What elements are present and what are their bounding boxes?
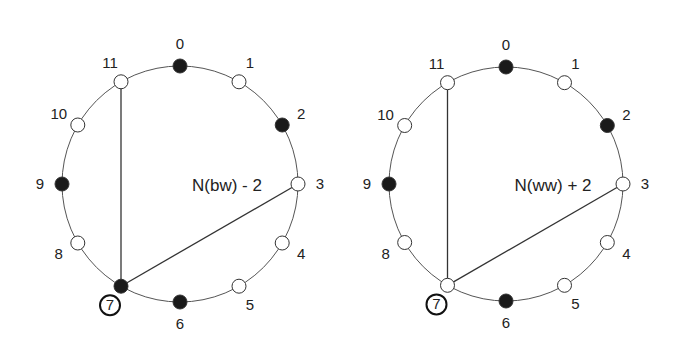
edge-3-7 [448,184,624,285]
node-11-empty [441,76,455,90]
node-5-empty [558,278,572,292]
node-5-empty [232,279,246,293]
node-0-filled [499,60,513,74]
node-label-0: 0 [176,35,184,52]
node-label-11: 11 [429,55,445,72]
edge-3-7 [121,184,298,286]
node-label-8: 8 [55,245,63,262]
node-1-empty [232,75,246,89]
node-label-9: 9 [36,175,44,192]
node-11-empty [114,75,128,89]
node-6-filled [173,295,187,309]
node-8-empty [398,236,412,250]
node-2-filled [600,119,614,133]
node-label-10: 10 [50,105,67,122]
node-9-filled [55,177,69,191]
node-label-4: 4 [297,245,305,262]
node-label-2: 2 [622,106,630,123]
node-8-empty [71,236,85,250]
clock-diagram-right: N(ww) + 201234567891011 [363,36,649,331]
node-label-3: 3 [316,175,324,192]
node-7-empty [441,278,455,292]
node-7-filled [114,279,128,293]
node-label-0: 0 [502,36,510,53]
node-label-8: 8 [381,245,389,262]
node-label-5: 5 [246,296,254,313]
node-9-filled [382,177,396,191]
node-label-7: 7 [106,296,114,313]
node-label-3: 3 [641,175,649,192]
node-3-empty [616,177,630,191]
node-label-1: 1 [246,54,254,71]
node-label-4: 4 [622,245,630,262]
pitch-class-diagrams: N(bw) - 201234567891011N(ww) + 201234567… [0,0,673,362]
node-label-10: 10 [377,106,394,123]
node-10-empty [398,119,412,133]
node-label-2: 2 [297,105,305,122]
node-label-9: 9 [363,175,371,192]
node-3-empty [291,177,305,191]
node-label-1: 1 [571,55,579,72]
node-label-5: 5 [571,295,579,312]
node-label-6: 6 [502,314,510,331]
node-label-6: 6 [176,315,184,332]
node-0-filled [173,59,187,73]
node-6-filled [499,294,513,308]
clock-diagram-left: N(bw) - 201234567891011 [36,35,324,332]
node-10-empty [71,118,85,132]
node-1-empty [558,76,572,90]
center-label: N(bw) - 2 [192,176,262,195]
center-label: N(ww) + 2 [515,176,592,195]
node-label-7: 7 [432,295,440,312]
node-2-filled [275,118,289,132]
node-label-11: 11 [102,54,118,71]
node-4-empty [600,236,614,250]
clock-ring [62,66,298,302]
node-4-empty [275,236,289,250]
